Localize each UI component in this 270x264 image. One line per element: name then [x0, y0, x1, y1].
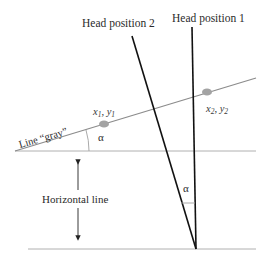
point-2-label: x2, y2: [205, 103, 228, 116]
point-1-label: x1, y1: [92, 106, 115, 119]
alpha-label-bottom: α: [183, 182, 189, 194]
alpha-arc-left: [86, 130, 89, 151]
horizontal-line-label: Horizontal line: [42, 193, 108, 205]
head-position-1-label: Head position 1: [172, 12, 245, 25]
point-x1-y1: [99, 120, 109, 127]
alpha-label-left: α: [98, 131, 104, 143]
head-tilt-diagram: Head position 2 Head position 1 Line “gr…: [0, 0, 270, 264]
point-x2-y2: [202, 88, 212, 95]
line-gray-label: Line “gray”: [18, 126, 69, 150]
head-position-2-line: [132, 36, 196, 249]
head-position-2-label: Head position 2: [82, 17, 155, 30]
head-position-1-line: [192, 27, 196, 249]
